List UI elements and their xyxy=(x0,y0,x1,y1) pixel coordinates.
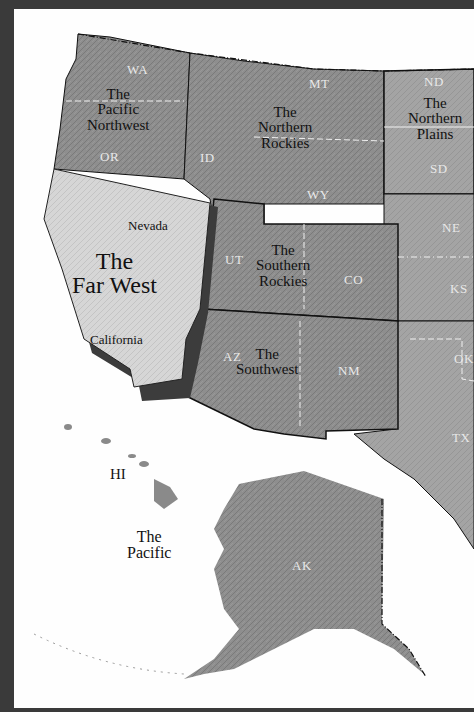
label-northern-plains: TheNorthernPlains xyxy=(408,96,462,142)
state-co: CO xyxy=(344,273,363,286)
state-wa: WA xyxy=(127,63,148,76)
state-ak: AK xyxy=(292,559,312,572)
state-tx: TX xyxy=(452,431,470,444)
state-ok: OK xyxy=(454,352,474,365)
label-far-west: TheFar West xyxy=(72,249,157,298)
state-nm: NM xyxy=(338,364,360,377)
label-pacific: ThePacific xyxy=(127,529,171,562)
state-hi: HI xyxy=(110,467,126,482)
label-northern-rockies: TheNorthernRockies xyxy=(258,105,312,151)
label-pacific-northwest: ThePacificNorthwest xyxy=(87,87,150,133)
state-id: ID xyxy=(200,151,215,164)
label-nevada: Nevada xyxy=(128,219,168,232)
label-southern-rockies: TheSouthernRockies xyxy=(256,243,310,289)
state-sd: SD xyxy=(430,162,448,175)
state-ne: NE xyxy=(442,221,460,234)
state-mt: MT xyxy=(309,77,330,90)
state-wy: WY xyxy=(307,188,330,201)
label-southwest: TheSouthwest xyxy=(236,347,299,378)
state-ut: UT xyxy=(225,253,243,266)
map-frame: ThePacificNorthwest TheNorthernRockies T… xyxy=(14,9,474,708)
state-or: OR xyxy=(100,150,119,163)
state-az: AZ xyxy=(223,350,241,363)
label-california: California xyxy=(90,333,143,346)
alaska xyxy=(184,471,424,679)
state-ks: KS xyxy=(450,282,468,295)
state-nd: ND xyxy=(424,75,444,88)
